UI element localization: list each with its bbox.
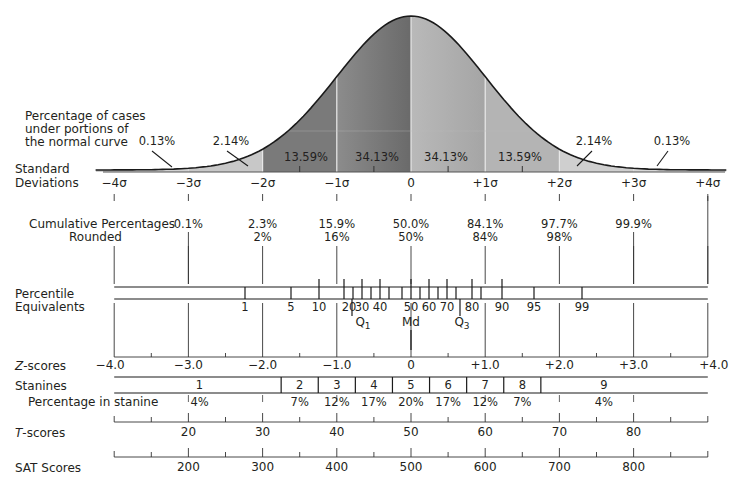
z-score-4: 0 — [407, 359, 415, 372]
region-label-0-pos1: 34.13% — [424, 151, 468, 164]
stanine-9: 9 — [600, 379, 607, 392]
sat-score-300: 300 — [251, 461, 274, 474]
z-score-5: +1.0 — [471, 359, 500, 372]
t-score-70: 70 — [552, 426, 567, 439]
percentile-40: 40 — [373, 301, 388, 314]
percentile-50: 50 — [404, 301, 419, 314]
cumulative-rounded-3: 50% — [398, 231, 424, 244]
percentile-1: 1 — [241, 301, 248, 314]
sigma-label-2: −2σ — [250, 177, 275, 190]
region-label-pos2-pos3: 2.14% — [576, 135, 613, 148]
stanine-pct-1: 4% — [190, 396, 208, 409]
percentile-30: 30 — [355, 301, 370, 314]
t-score-60: 60 — [478, 426, 493, 439]
z-scores-label: Z-scores — [15, 359, 66, 373]
region-label-neg2-neg1: 13.59% — [284, 151, 328, 164]
sigma-label-7: +3σ — [621, 177, 646, 190]
z-score-0: −4.0 — [96, 359, 125, 372]
curve-note-line-3: the normal curve — [25, 135, 128, 149]
t-score-40: 40 — [329, 426, 344, 439]
z-score-6: +2.0 — [545, 359, 574, 372]
sat-score-800: 800 — [622, 461, 645, 474]
z-score-1: −3.0 — [174, 359, 203, 372]
percentile-10: 10 — [312, 301, 327, 314]
region-label-neg4-neg3: 0.13% — [139, 135, 176, 148]
sat-score-500: 500 — [400, 461, 423, 474]
t-score-20: 20 — [181, 426, 196, 439]
sigma-label-3: −1σ — [324, 177, 349, 190]
percentile-95: 95 — [527, 301, 542, 314]
region-label-neg3-neg2: 2.14% — [213, 135, 250, 148]
q1-label: Q1 — [355, 316, 370, 333]
region-label-neg1-0: 34.13% — [355, 151, 399, 164]
z-score-8: +4.0 — [699, 359, 728, 372]
rounded-label: Rounded — [69, 230, 122, 244]
percentile-label-line-1: Percentile — [15, 287, 74, 301]
percentile-80: 80 — [465, 301, 480, 314]
pct-in-stanine-label: Percentage in stanine — [28, 395, 158, 409]
stanine-pct-9: 4% — [595, 396, 613, 409]
stanine-1: 1 — [196, 379, 203, 392]
sat-scores-label: SAT Scores — [15, 461, 81, 475]
sat-score-200: 200 — [177, 461, 200, 474]
stanines-label: Stanines — [15, 379, 67, 393]
region-label-pos1-pos2: 13.59% — [498, 151, 542, 164]
stanine-7: 7 — [482, 379, 489, 392]
sigma-label-0: −4σ — [102, 177, 127, 190]
t-score-50: 50 — [403, 426, 418, 439]
z-score-7: +3.0 — [619, 359, 648, 372]
sigma-label-6: +2σ — [547, 177, 572, 190]
curve-note-line-1: Percentage of cases — [25, 109, 146, 123]
cumulative-rounded-1: 2% — [253, 231, 271, 244]
cumulative-exact-6: 99.9% — [615, 218, 652, 231]
t-score-80: 80 — [626, 426, 641, 439]
stanine-3: 3 — [333, 379, 340, 392]
cumulative-rounded-5: 98% — [547, 231, 573, 244]
cumulative-label: Cumulative Percentages — [29, 217, 175, 231]
stanine-2: 2 — [296, 379, 303, 392]
percentile-5: 5 — [287, 301, 294, 314]
percentile-99: 99 — [575, 301, 590, 314]
percentile-label-line-2: Equivalents — [15, 300, 85, 314]
region-label-pos3-pos4: 0.13% — [654, 135, 691, 148]
cumulative-exact-0: 0.1% — [174, 218, 203, 231]
sigma-label-4: 0 — [407, 177, 415, 190]
percentile-90: 90 — [495, 301, 510, 314]
t-score-30: 30 — [255, 426, 270, 439]
std-dev-label-line-2: Deviations — [15, 176, 79, 190]
stanine-pct-5: 20% — [398, 396, 424, 409]
sat-score-400: 400 — [325, 461, 348, 474]
q3-label: Q3 — [454, 316, 469, 333]
cumulative-rounded-4: 84% — [472, 231, 498, 244]
t-scores-label: T-scores — [15, 426, 65, 440]
stanine-pct-8: 7% — [513, 396, 531, 409]
stanine-pct-4: 17% — [361, 396, 387, 409]
cumulative-rounded-2: 16% — [324, 231, 350, 244]
stanine-4: 4 — [370, 379, 377, 392]
median-label: Md — [402, 316, 420, 329]
stanine-6: 6 — [444, 379, 451, 392]
stanine-pct-7: 12% — [472, 396, 498, 409]
stanine-pct-3: 12% — [324, 396, 350, 409]
percentile-70: 70 — [440, 301, 455, 314]
sat-score-700: 700 — [548, 461, 571, 474]
z-score-2: −2.0 — [248, 359, 277, 372]
stanine-pct-6: 17% — [435, 396, 461, 409]
stanine-8: 8 — [519, 379, 526, 392]
percentile-60: 60 — [422, 301, 437, 314]
sigma-label-5: +1σ — [473, 177, 498, 190]
sigma-label-1: −3σ — [176, 177, 201, 190]
stanine-5: 5 — [407, 379, 414, 392]
sat-score-600: 600 — [474, 461, 497, 474]
curve-note-line-2: under portions of — [25, 122, 128, 136]
sigma-label-8: +4σ — [695, 177, 720, 190]
stanine-pct-2: 7% — [291, 396, 309, 409]
std-dev-label-line-1: Standard — [15, 162, 70, 176]
z-score-3: −1.0 — [322, 359, 351, 372]
